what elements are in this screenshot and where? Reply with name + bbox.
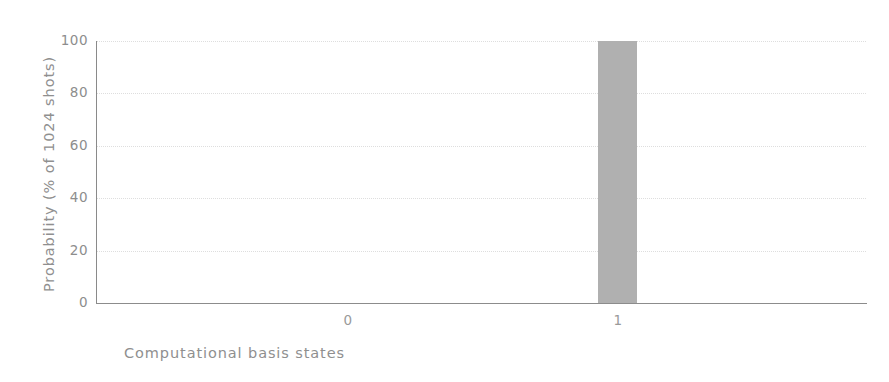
x-tick-label-0: 0 [318,314,378,328]
y-axis-title: Probability (% of 1024 shots) [41,24,57,324]
y-tick-label-100: 100 [48,34,88,48]
y-axis-spine [96,41,97,304]
y-tick-label-40: 40 [48,191,88,205]
x-tick-label-1: 1 [588,314,648,328]
y-tick-label-0: 0 [48,296,88,310]
bar-chart-figure: Probability (% of 1024 shots) 100 80 60 … [0,0,889,382]
x-axis-title-container: Computational basis states [0,345,889,361]
gridline-80 [97,93,866,95]
bar-state-1 [598,41,637,303]
x-axis-title: Computational basis states [124,345,345,361]
gridline-100 [97,41,866,43]
y-tick-label-20: 20 [48,244,88,258]
x-axis-spine [96,303,867,304]
y-tick-label-60: 60 [48,139,88,153]
gridline-40 [97,198,866,200]
y-tick-label-80: 80 [48,87,88,101]
gridline-60 [97,146,866,148]
gridline-20 [97,251,866,253]
plot-area [97,41,866,303]
